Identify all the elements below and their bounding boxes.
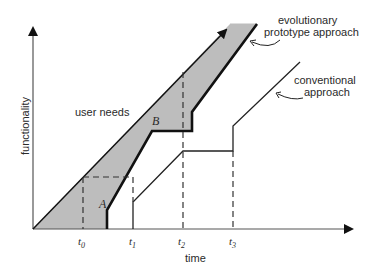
label-region-b: B: [152, 114, 160, 128]
evolutionary-callout-arrow: [252, 40, 280, 46]
svg-text:t3: t3: [229, 235, 236, 250]
conventional-approach-line: [133, 62, 300, 229]
label-conventional-line2: approach: [304, 86, 350, 98]
svg-text:t0: t0: [78, 235, 85, 250]
tick-t0: t0: [78, 235, 85, 250]
x-axis-label: time: [185, 252, 206, 264]
evolutionary-gap-band: [33, 24, 257, 229]
svg-text:t2: t2: [178, 235, 185, 250]
y-axis-label: functionality: [19, 96, 31, 155]
tick-t3: t3: [229, 235, 236, 250]
label-evolutionary-line1: evolutionary: [278, 14, 338, 26]
user-needs-line: [33, 30, 226, 229]
label-region-a: A: [98, 197, 107, 211]
diagram-canvas: user needs B A evolutionary prototype ap…: [0, 0, 379, 276]
label-user-needs: user needs: [75, 106, 130, 118]
svg-text:t1: t1: [129, 235, 136, 250]
label-evolutionary-line2: prototype approach: [264, 26, 359, 38]
label-conventional-line1: conventional: [294, 74, 356, 86]
conventional-callout-arrow: [278, 94, 303, 99]
tick-t2: t2: [178, 235, 185, 250]
tick-t1: t1: [129, 235, 136, 250]
